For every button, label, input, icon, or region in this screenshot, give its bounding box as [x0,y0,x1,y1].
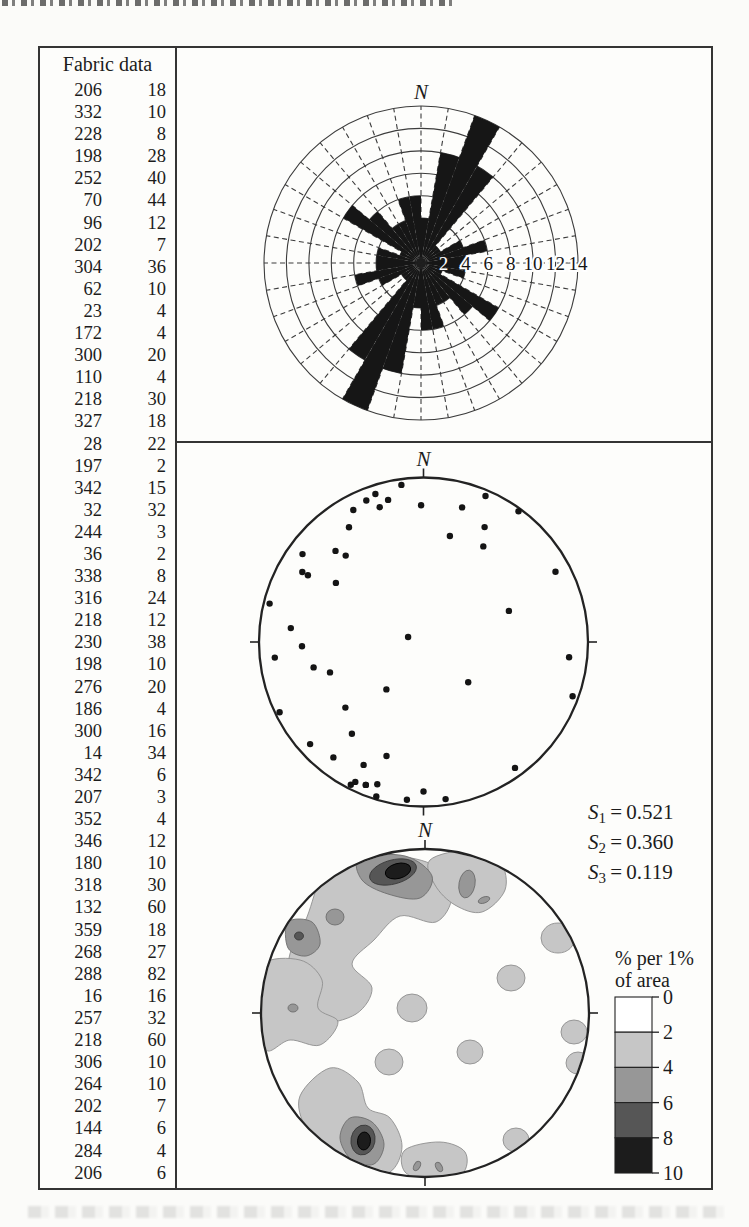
scatter-point [383,753,389,759]
book-page-scan: Fabric data 2061833210228819828252407044… [0,0,749,1227]
legend-box [615,1138,652,1173]
figure-box: Fabric data 2061833210228819828252407044… [38,46,713,1190]
scatter-point [350,507,356,513]
scatter-north-label: N [415,447,431,471]
legend-box [615,1032,652,1067]
contour-blob-level-6 [295,932,304,940]
scatter-point [330,754,336,760]
scatter-point [299,569,305,575]
contour-blob-level-2 [497,965,525,991]
scatter-point [310,664,316,670]
scatter-point [420,788,426,794]
scatter-point [506,608,512,614]
scatter-point [404,797,410,803]
scatter-point [569,693,575,699]
page-bottom-faint-text [28,1206,730,1218]
scatter-point [276,709,282,715]
s2-stat: S2 = 0.360 [588,830,674,856]
scatter-point [266,600,272,606]
contour-blob-level-4 [288,1004,298,1012]
scatter-point [299,551,305,557]
page-header-clipped-text [2,0,454,6]
rose-radial-tick-label: 6 [484,253,494,274]
scatter-point [480,543,486,549]
legend-tick-label: 2 [663,1021,673,1043]
scatter-point [566,654,572,660]
legend-tick-label: 4 [663,1056,673,1078]
rose-diagram: 2468101214 N [264,80,588,420]
scatter-point [332,548,338,554]
contour-legend: % per 1% of area 0246810 [615,947,694,1184]
legend-tick-label: 6 [663,1092,673,1114]
scatter-point [442,796,448,802]
rose-radial-tick-label: 2 [439,253,449,274]
contour-blob-level-2 [397,994,427,1022]
legend-box [615,1067,652,1102]
rose-radial-tick-label: 12 [546,253,565,274]
scatter-point [459,504,465,510]
legend-title-line1: % per 1% [615,947,694,970]
stereonet-scatter: N [250,447,597,816]
scatter-point [299,643,305,649]
stereonet-primitive-circle [259,478,588,807]
scatter-point [377,504,383,510]
scatter-point [482,493,488,499]
contoured-stereonet: N [252,818,598,1186]
scatter-point [307,741,313,747]
scatter-point [374,781,380,787]
legend-tick-label: 8 [663,1127,673,1149]
scatter-point [418,502,424,508]
scatter-point [363,782,369,788]
contour-north-label: N [417,818,433,842]
s3-stat: S3 = 0.119 [588,860,673,886]
scatter-point [372,491,378,497]
scatter-point [363,497,369,503]
plots-panel: 2468101214 N N N S1 = 0.521S2 = 0.360S3 … [40,48,711,1188]
eigenvalue-stats: S1 = 0.521S2 = 0.360S3 = 0.119 [588,800,674,886]
legend-tick-label: 10 [663,1162,683,1184]
s1-stat: S1 = 0.521 [588,800,674,826]
scatter-point [360,762,366,768]
scatter-point [512,765,518,771]
scatter-point [373,793,379,799]
scatter-point [465,679,471,685]
rose-radial-tick-label: 10 [524,253,543,274]
legend-tick-label: 0 [663,986,673,1008]
scatter-point [349,731,355,737]
scatter-point [327,669,333,675]
scatter-point [333,580,339,586]
scatter-point [346,524,352,530]
rose-north-label: N [413,80,429,104]
contour-blob-level-2 [561,1020,587,1044]
scatter-point [305,572,311,578]
scatter-point [515,508,521,514]
scatter-point [383,686,389,692]
scatter-point [481,524,487,530]
rose-radial-tick-label: 8 [506,253,516,274]
scatter-point [447,533,453,539]
rose-radial-tick-label: 4 [461,253,471,274]
scatter-point [272,654,278,660]
contour-blob-level-2 [457,1040,483,1064]
rose-radial-tick-label: 14 [569,253,589,274]
contour-blob-level-4 [326,909,344,925]
legend-title-line2: of area [615,969,670,991]
scatter-point [385,497,391,503]
scatter-point [288,625,294,631]
legend-box [615,1103,652,1138]
scatter-point [405,634,411,640]
scatter-point [342,704,348,710]
scatter-point [343,552,349,558]
legend-box [615,997,652,1032]
scatter-point [398,482,404,488]
scatter-point [352,779,358,785]
contour-blob-level-2 [375,1049,403,1075]
scatter-point [552,569,558,575]
